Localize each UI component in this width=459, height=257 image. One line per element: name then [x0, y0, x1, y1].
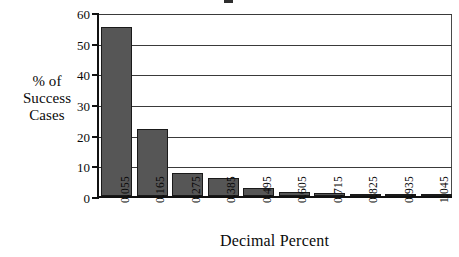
gridline-60: [99, 14, 452, 15]
y-tick-label-0: 0: [84, 192, 91, 205]
y-tick-0: [92, 197, 99, 199]
y-tick-60: [92, 13, 99, 15]
y-tick-50: [92, 44, 99, 46]
x-tick-label: 0.825: [368, 176, 380, 203]
bar: [101, 27, 132, 196]
y-tick-label-60: 60: [77, 8, 90, 21]
y-tick-label-10: 10: [77, 161, 90, 174]
y-tick-label-40: 40: [77, 69, 90, 82]
y-tick-40: [92, 74, 99, 76]
y-tick-10: [92, 166, 99, 168]
x-tick-label: 0.275: [191, 176, 203, 203]
plot-right-edge: [451, 14, 452, 196]
gridline-30: [99, 106, 452, 107]
cropped-title-remnant: [224, 0, 233, 3]
y-tick-30: [92, 105, 99, 107]
gridline-50: [99, 45, 452, 46]
x-tick-label: 1.045: [439, 176, 451, 203]
y-axis-title: % of Success Cases: [8, 73, 86, 124]
plot-area: 0102030405060: [97, 14, 452, 198]
gridline-40: [99, 75, 452, 76]
y-tick-label-30: 30: [77, 100, 90, 113]
x-axis-title: Decimal Percent: [97, 232, 452, 250]
x-tick-label: 0.605: [297, 176, 309, 203]
y-tick-20: [92, 136, 99, 138]
histogram-figure: % of Success Cases 0102030405060 0.0550.…: [0, 0, 459, 257]
x-tick-label: 0.055: [120, 176, 132, 203]
x-tick-label: 0.495: [262, 176, 274, 203]
y-tick-label-20: 20: [77, 130, 90, 143]
x-tick-label: 0.385: [226, 176, 238, 203]
x-tick-label: 0.935: [404, 176, 416, 203]
x-tick-label: 0.165: [155, 176, 167, 203]
x-tick-label: 0.715: [333, 176, 345, 203]
y-tick-label-50: 50: [77, 38, 90, 51]
